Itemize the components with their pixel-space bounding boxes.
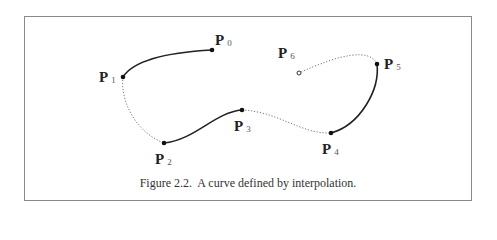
point-label-letter: P xyxy=(155,151,164,167)
point-label-subscript: 2 xyxy=(167,157,172,167)
point-label-p0: P0 xyxy=(215,33,232,48)
curve-segment-p4-p5 xyxy=(331,64,377,133)
point-label-letter: P xyxy=(322,141,331,157)
point-label-p2: P2 xyxy=(155,152,172,167)
point-label-subscript: 6 xyxy=(290,51,295,61)
point-label-subscript: 4 xyxy=(334,147,339,157)
point-label-letter: P xyxy=(99,69,108,85)
figure-caption: Figure 2.2. A curve defined by interpola… xyxy=(24,176,472,191)
point-label-letter: P xyxy=(234,118,243,134)
point-marker-p0 xyxy=(210,48,215,53)
point-label-p1: P1 xyxy=(99,70,116,85)
point-marker-p4 xyxy=(329,131,334,136)
point-label-p6: P6 xyxy=(278,46,295,61)
curve-segment-p1-p2 xyxy=(123,77,164,143)
point-marker-p3 xyxy=(240,108,245,113)
point-label-p5: P5 xyxy=(384,57,401,72)
point-label-subscript: 0 xyxy=(227,38,232,48)
point-label-subscript: 5 xyxy=(396,62,401,72)
curve-segment-p5-p6 xyxy=(299,55,377,73)
point-marker-p1 xyxy=(121,75,126,80)
point-label-letter: P xyxy=(215,32,224,48)
curve-segment-p0-p1 xyxy=(123,50,212,77)
curve-segment-p3-p4 xyxy=(242,110,331,133)
point-marker-p2 xyxy=(162,141,167,146)
point-marker-p6 xyxy=(297,71,301,75)
curve-segment-p2-p3 xyxy=(164,110,242,143)
point-label-subscript: 3 xyxy=(246,124,251,134)
point-label-p4: P4 xyxy=(322,142,339,157)
point-label-letter: P xyxy=(384,56,393,72)
point-label-subscript: 1 xyxy=(111,75,116,85)
point-label-p3: P3 xyxy=(234,119,251,134)
point-label-letter: P xyxy=(278,45,287,61)
point-marker-p5 xyxy=(375,62,380,67)
